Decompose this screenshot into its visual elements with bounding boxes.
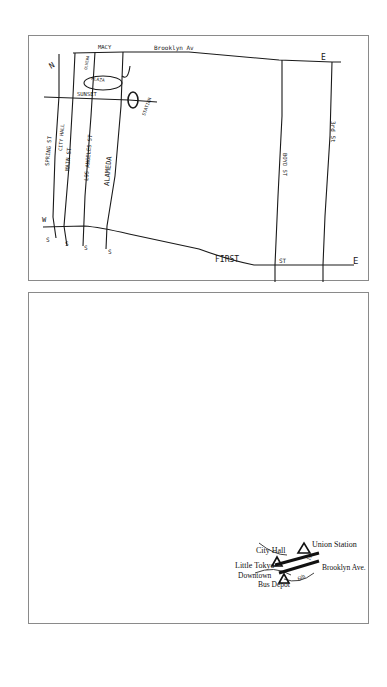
- mark-north-left: N: [48, 60, 57, 70]
- mark-south-1: S: [46, 236, 50, 243]
- mark-east-bottom: E: [353, 256, 358, 266]
- sketch-map-panel: MACY Brooklyn Av SUNSET PLAZA OLVERA STA…: [28, 35, 369, 281]
- label-6th: 6th: [297, 573, 307, 582]
- label-brooklyn-av: Brooklyn Av: [154, 44, 194, 52]
- landmark-map-panel: Union Station City Hall Little Tokyo Dow…: [28, 292, 369, 624]
- label-brooklyn-ave: Brooklyn Ave.: [322, 563, 366, 572]
- label-city-hall: City Hall: [256, 546, 286, 555]
- label-macy: MACY: [98, 44, 112, 50]
- union-station-marker-icon: [298, 543, 310, 553]
- label-sunset: SUNSET: [77, 91, 98, 97]
- mark-south-3: S: [84, 244, 88, 251]
- label-first-st: FIRST: [215, 255, 239, 264]
- label-main-st: MAIN ST: [64, 147, 72, 171]
- landmark-map-drawing: Union Station City Hall Little Tokyo Dow…: [29, 293, 370, 625]
- label-third-st: 3rd St: [330, 121, 337, 143]
- label-city-hall: CITY HALL: [57, 124, 65, 152]
- label-station: STATION: [141, 97, 152, 117]
- label-alameda: ALAMEDA: [103, 155, 114, 186]
- label-downtown: Downtown: [238, 571, 272, 580]
- label-spring-st: SPRING ST: [44, 135, 53, 166]
- mark-east-top: E: [321, 53, 326, 62]
- mark-south-2: S: [65, 240, 69, 247]
- label-los-angeles-st: LOS ANGELES ST: [83, 134, 93, 181]
- label-little-tokyo: Little Tokyo: [235, 561, 275, 570]
- label-bus-depot: Bus Depot: [258, 580, 291, 589]
- label-olvera: OLVERA: [83, 54, 91, 70]
- sketch-map-drawing: MACY Brooklyn Av SUNSET PLAZA OLVERA STA…: [29, 36, 370, 282]
- label-boyd-st: BOYD ST: [282, 153, 288, 177]
- label-union-station: Union Station: [312, 540, 357, 549]
- mark-south-4: S: [108, 248, 112, 255]
- mark-west: W: [42, 216, 47, 224]
- label-first-st-suffix: ST: [279, 257, 287, 264]
